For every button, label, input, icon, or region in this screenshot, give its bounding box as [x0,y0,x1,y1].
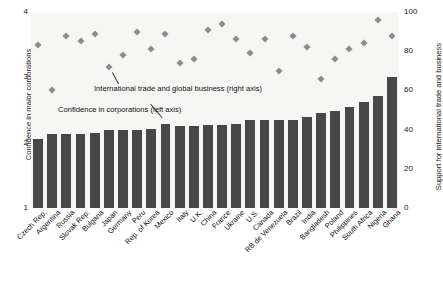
scatter-marker [77,38,84,45]
scatter-marker [247,50,254,57]
x-axis-labels: Czech Rep.ArgentinaRussiaSlovak Rep.Bulg… [31,208,399,289]
scatter-marker [374,16,381,23]
scatter-marker [303,44,310,51]
scatter-marker [91,30,98,37]
y-tick-label-left: 4 [14,8,28,16]
y-tick-label-right: 20 [404,165,424,173]
y-tick-label-left: 3 [14,73,28,81]
scatter-marker [360,40,367,47]
y-tick-label-right: 100 [404,8,424,16]
y-axis-ticks-right: 100806040200 [404,0,426,289]
scatter-marker [63,32,70,39]
scatter-marker [261,36,268,43]
scatter-marker [49,87,56,94]
scatter-marker [289,32,296,39]
y-axis-ticks-left: 4321 [12,0,28,289]
scatter-marker [219,20,226,27]
scatter-marker [119,52,126,59]
scatter-marker [176,59,183,66]
annotation-confidence: Confidence in corporations (left axis) [58,105,181,114]
y-tick-label-left: 1 [14,204,28,212]
y-tick-label-right: 80 [404,47,424,55]
scatter-marker [162,30,169,37]
x-tick-label: Italy [174,208,190,224]
scatter-marker [332,55,339,62]
scatter-marker [190,55,197,62]
y-tick-label-right: 40 [404,126,424,134]
scatter-marker [105,63,112,70]
scatter-marker [35,42,42,49]
scatter-marker [318,75,325,82]
y-axis-title-right: Support for international trade and busi… [434,17,443,217]
scatter-marker [204,26,211,33]
scatter-marker [134,28,141,35]
scatter-marker [388,32,395,39]
annotation-trade: International trade and global business … [94,84,262,93]
y-tick-label-left: 2 [14,139,28,147]
scatter-marker [148,46,155,53]
y-tick-label-right: 60 [404,86,424,94]
y-tick-label-right: 0 [404,204,424,212]
scatter-marker [275,67,282,74]
scatter-marker [233,36,240,43]
scatter-marker [346,46,353,53]
